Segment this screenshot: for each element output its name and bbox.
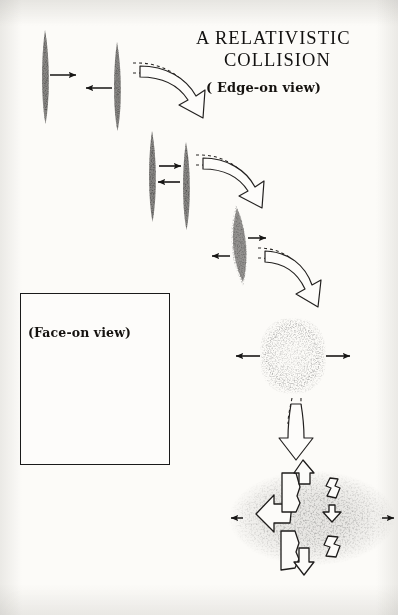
- figure-canvas: (Face-on view) A RELATIVISTIC COLLISION …: [0, 0, 398, 615]
- stage-2-pancake-right: [183, 142, 190, 230]
- stage-1-pancake-left: [42, 30, 49, 124]
- stage-2-group: [149, 131, 190, 230]
- flow-arrow-4: [279, 398, 313, 460]
- flow-arrow-1: [133, 63, 205, 118]
- flow-arrow-3: [258, 248, 321, 307]
- stage-5-cloud: [228, 470, 396, 566]
- page-title-line-1: A RELATIVISTIC: [196, 28, 351, 49]
- fragment-arrow-upper-left: [282, 473, 300, 512]
- face-on-inset-box: [20, 293, 170, 465]
- face-on-caption: (Face-on view): [28, 325, 131, 340]
- stage-1-group: [42, 30, 121, 131]
- stage-5-group: [228, 460, 396, 575]
- stage-1-pancake-right: [114, 42, 121, 131]
- stage-3-group: [212, 205, 266, 286]
- stage-3-blob: [231, 205, 247, 286]
- stage-2-pancake-left: [149, 131, 156, 222]
- stage-4-blob: [262, 320, 324, 392]
- edge-on-caption: ( Edge-on view): [206, 80, 321, 95]
- stage-4-group: [236, 320, 350, 392]
- flow-arrow-2: [196, 155, 264, 208]
- page-title-line-2: COLLISION: [224, 50, 331, 71]
